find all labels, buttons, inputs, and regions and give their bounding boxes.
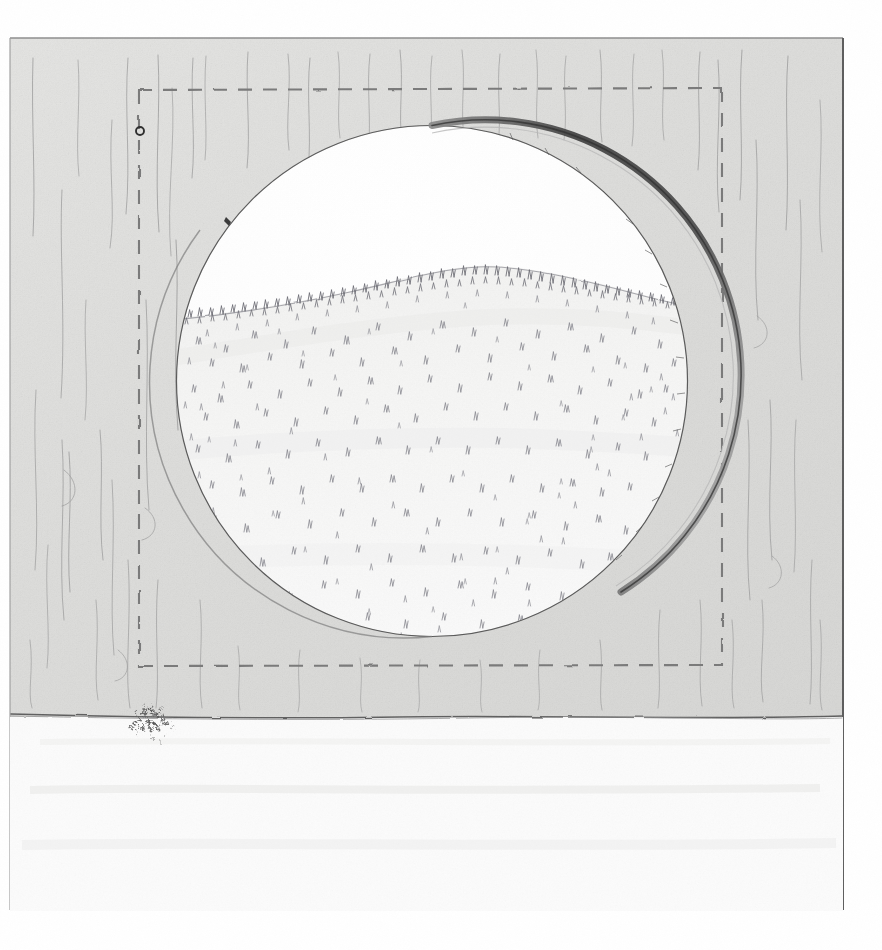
paper-tooth-overlay — [0, 0, 882, 950]
pencil-drawing-canvas — [0, 0, 882, 950]
artboard: Pencil drawing of a circular window onto… — [0, 0, 882, 950]
